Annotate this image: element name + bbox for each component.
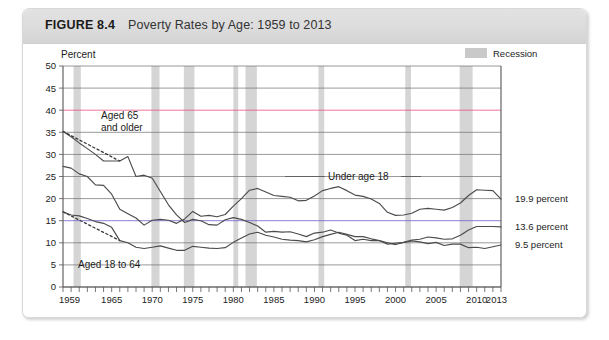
dotted-interpolation-line [63,131,120,161]
series-line [63,166,501,225]
gridlines-group [63,66,501,287]
x-axis-tick-label: 1995 [344,294,365,305]
recession-legend-label: Recession [493,48,537,59]
y-axis-tick-label: 20 [45,193,56,204]
annotation-under18: Under age 18 [328,171,389,182]
recession-legend-swatch [465,48,487,58]
figure-card: FIGURE 8.4 Poverty Rates by Age: 1959 to… [22,8,587,318]
y-axis-tick-label: 0 [51,281,56,292]
chart-plot-area: 05101520253035404550 1959196519701975198… [23,44,586,318]
y-axis-tick-labels: 05101520253035404550 [45,60,56,292]
y-axis-tick-label: 25 [45,171,56,182]
y-axis-tick-label: 40 [45,105,56,116]
x-axis-tick-label: 1970 [142,294,163,305]
annotation-aged18to64: Aged 18 to 64 [78,259,141,270]
x-axis-tick-label: 2010 [466,294,487,305]
x-axis-tick-label: 1990 [304,294,325,305]
figure-number: FIGURE 8.4 [45,18,115,32]
dotted-interpolation-line [63,212,120,241]
y-axis-tick-label: 30 [45,149,56,160]
x-axis-tick-label: 2000 [385,294,406,305]
y-axis-title: Percent [61,49,96,60]
dotted-interpolation-group [63,131,120,240]
y-axis-tick-label: 10 [45,237,56,248]
end-value-labels: 19.9 percent 13.6 percent 9.5 percent [515,193,568,250]
end-label-aged65: 9.5 percent [515,239,563,250]
x-axis-tick-label: 2005 [426,294,447,305]
x-axis-tick-label: 1985 [263,294,284,305]
series-line [63,131,501,248]
x-axis-tick-label: 1975 [182,294,203,305]
x-axis-tick-label: 1980 [223,294,244,305]
x-axis-tick-label: 1965 [101,294,122,305]
x-axis-tick-label: 2013 [486,294,507,305]
x-axis-tick-labels: 1959196519701975198019851990199520002005… [59,294,507,305]
annotation-aged65-line1: Aged 65 [101,110,139,121]
y-axis-tick-label: 45 [45,83,56,94]
series-line [63,212,501,250]
y-axis-tick-label: 50 [45,60,56,71]
y-axis-tick-label: 15 [45,215,56,226]
figure-title: Poverty Rates by Age: 1959 to 2013 [128,18,332,32]
series-lines-group [63,131,501,250]
y-axis-tick-label: 35 [45,127,56,138]
y-axis-tick-label: 5 [51,259,56,270]
figure-header: FIGURE 8.4 Poverty Rates by Age: 1959 to… [23,9,586,44]
x-axis-tick-label: 1959 [59,294,80,305]
end-label-aged18to64: 13.6 percent [515,221,568,232]
poverty-rates-line-chart: 05101520253035404550 1959196519701975198… [23,44,587,318]
end-label-under18: 19.9 percent [515,193,568,204]
annotation-aged65-line2: and older [101,122,143,133]
